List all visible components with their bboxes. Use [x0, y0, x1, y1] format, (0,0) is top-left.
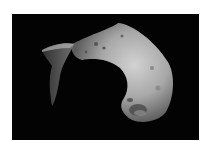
asteroid-body	[71, 23, 173, 122]
asteroid-limb	[42, 43, 74, 106]
photo-frame	[12, 14, 199, 140]
asteroid-photo	[12, 14, 199, 140]
